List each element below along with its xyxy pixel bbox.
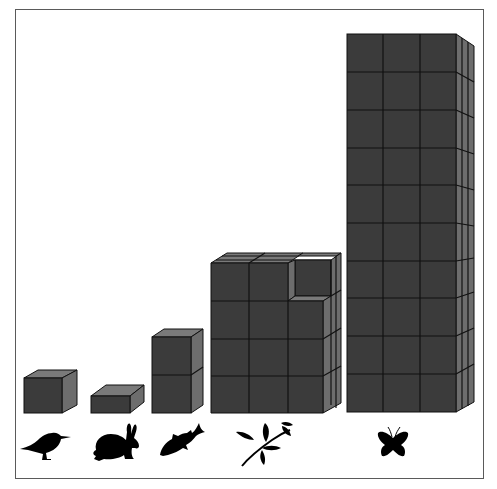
rabbit-icon [93, 424, 139, 461]
stack-butterfly [347, 34, 474, 412]
butterfly-icon [378, 427, 408, 456]
stack-bird [24, 370, 77, 413]
stack-rabbit [91, 385, 144, 413]
bird-icon [20, 433, 71, 460]
stack-plant [211, 253, 341, 413]
stack-fish [152, 329, 203, 413]
cube-stacks-scene: .f { fill: #3b3b3b; stroke: #111; stroke… [0, 0, 497, 489]
plant-sprig-icon [236, 422, 293, 466]
fish-icon [160, 423, 205, 456]
